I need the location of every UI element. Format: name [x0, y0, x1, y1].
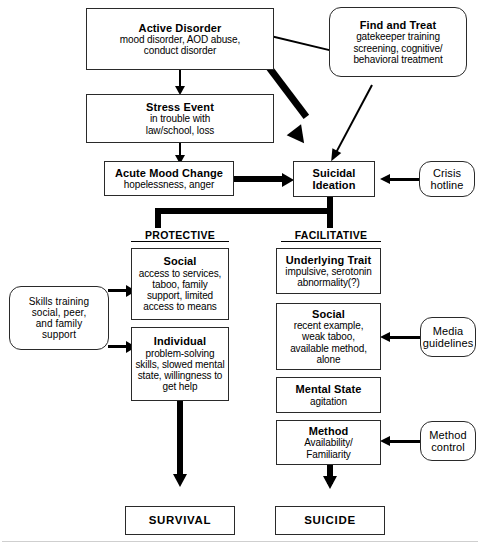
node-stress-event-sub: in trouble with law/school, loss — [146, 113, 214, 135]
node-find-and-treat-title: Find and Treat — [360, 19, 437, 31]
node-acute-mood-change-sub: hopelessness, anger — [124, 179, 214, 190]
node-media-guidelines[interactable]: Media guidelines — [420, 317, 476, 357]
connector-split-bus — [155, 208, 333, 214]
arrowhead-suicidal-ideation-right — [380, 174, 390, 184]
node-underlying-trait[interactable]: Underlying Trait impulsive, serotonin ab… — [276, 248, 381, 294]
node-protective-individual[interactable]: Individual problem-solving skills, slowe… — [131, 327, 229, 401]
connector-crisis-hotline-to-ideation — [390, 178, 420, 181]
node-crisis-hotline[interactable]: Crisis hotline — [419, 161, 475, 197]
node-find-and-treat[interactable]: Find and Treat gatekeeper training scree… — [329, 7, 467, 77]
connector-bus-to-protective — [155, 208, 161, 228]
node-skills-training[interactable]: Skills training social, peer, and family… — [9, 286, 109, 350]
connector-find-treat-to-ideation — [334, 85, 373, 157]
node-protective-individual-title: Individual — [154, 335, 206, 347]
node-method-control-title: Method control — [429, 429, 466, 454]
node-acute-mood-change-title: Acute Mood Change — [115, 167, 223, 179]
node-stress-event-title: Stress Event — [146, 101, 214, 113]
node-suicidal-ideation[interactable]: Suicidal Ideation — [293, 161, 375, 197]
connector-media-guidelines-to-social — [390, 336, 422, 339]
flowchart-canvas: Active Disorder mood disorder, AOD abuse… — [0, 0, 480, 549]
connector-acute-mood-to-ideation — [233, 176, 287, 182]
node-method-sub: Availability/ Familiarity — [304, 437, 353, 459]
arrowhead-suicide — [323, 476, 337, 489]
node-method-control[interactable]: Method control — [420, 421, 476, 461]
node-survival[interactable]: SURVIVAL — [125, 506, 235, 535]
page-bottom-rule — [2, 541, 478, 542]
node-mental-state-sub: agitation — [310, 396, 347, 407]
column-header-facilitative: FACILITATIVE — [281, 229, 381, 242]
node-suicidal-ideation-title: Suicidal Ideation — [313, 167, 356, 192]
arrowhead-method — [380, 436, 390, 446]
node-media-guidelines-title: Media guidelines — [423, 325, 474, 350]
connector-bus-to-facilitative — [327, 208, 333, 228]
node-active-disorder[interactable]: Active Disorder mood disorder, AOD abuse… — [86, 8, 274, 70]
node-active-disorder-sub: mood disorder, AOD abuse, conduct disord… — [120, 34, 240, 56]
node-mental-state-title: Mental State — [296, 383, 362, 395]
arrowhead-ideation-from-active-disorder — [287, 124, 312, 148]
node-stress-event[interactable]: Stress Event in trouble with law/school,… — [86, 94, 274, 143]
node-acute-mood-change[interactable]: Acute Mood Change hopelessness, anger — [104, 161, 234, 196]
node-suicide-title: SUICIDE — [304, 514, 356, 527]
node-method[interactable]: Method Availability/ Familiarity — [276, 420, 381, 465]
node-skills-training-title: Skills training social, peer, and family… — [29, 296, 89, 341]
node-facilitative-social-title: Social — [312, 308, 345, 320]
node-mental-state[interactable]: Mental State agitation — [276, 377, 381, 413]
node-suicide[interactable]: SUICIDE — [275, 506, 385, 535]
node-protective-social-title: Social — [163, 255, 196, 267]
node-protective-individual-sub: problem-solving skills, slowed mental st… — [135, 348, 224, 393]
column-header-protective: PROTECTIVE — [131, 229, 229, 242]
node-facilitative-social[interactable]: Social recent example, weak taboo, avail… — [276, 303, 381, 370]
node-protective-social[interactable]: Social access to services, taboo, family… — [131, 248, 229, 320]
connector-protective-to-survival — [177, 400, 183, 481]
node-crisis-hotline-title: Crisis hotline — [430, 167, 463, 192]
connector-method-control-to-method — [390, 440, 422, 443]
node-method-title: Method — [309, 425, 349, 437]
node-active-disorder-title: Active Disorder — [139, 22, 222, 34]
node-facilitative-social-sub: recent example, weak taboo, available me… — [290, 320, 367, 365]
node-underlying-trait-sub: impulsive, serotonin abnormality(?) — [285, 266, 371, 288]
arrowhead-survival — [173, 474, 187, 487]
node-protective-social-sub: access to services, taboo, family suppor… — [139, 268, 222, 313]
node-find-and-treat-sub: gatekeeper training screening, cognitive… — [353, 31, 442, 65]
arrowhead-facilitative-social — [380, 332, 390, 342]
node-underlying-trait-title: Underlying Trait — [286, 254, 371, 266]
node-survival-title: SURVIVAL — [149, 514, 212, 527]
